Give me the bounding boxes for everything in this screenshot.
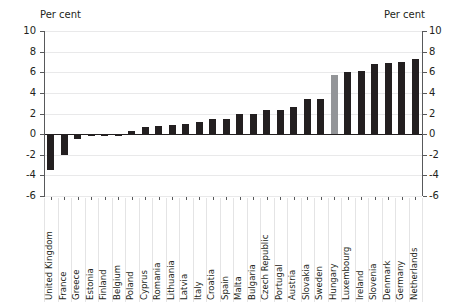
y-axis-label-right: 2 <box>429 109 435 119</box>
x-axis-tick <box>145 197 146 200</box>
y-axis-label-left: 8 <box>30 47 36 57</box>
bar <box>196 122 203 134</box>
left-axis-unit-label: Per cent <box>40 9 81 21</box>
y-axis-tick-right <box>423 72 427 73</box>
category-label: Cyprus <box>140 270 149 300</box>
x-axis-tick <box>91 197 92 200</box>
y-axis-label-left: 6 <box>30 67 36 77</box>
x-axis-tick <box>159 197 160 200</box>
category-label: Slovenia <box>369 263 378 300</box>
x-axis-tick <box>51 197 52 200</box>
bar <box>250 114 257 135</box>
category-label: Hungary <box>329 263 338 300</box>
y-axis-label-left: 10 <box>23 26 36 36</box>
gridline <box>44 52 422 53</box>
y-axis-label-left: 0 <box>30 129 36 139</box>
category-label: United Kingdom <box>45 231 54 300</box>
x-axis-tick <box>172 197 173 200</box>
category-label: Italy <box>194 281 203 300</box>
x-axis-tick <box>64 197 65 200</box>
x-axis-tick <box>334 197 335 200</box>
x-axis-tick <box>388 197 389 200</box>
y-axis-label-left: 2 <box>30 109 36 119</box>
category-label: Lithuania <box>167 260 176 300</box>
axis-spine-cap <box>423 196 427 197</box>
bar <box>236 114 243 135</box>
bar <box>169 125 176 134</box>
bar-chart: Per cent Per cent -6-6-4-4-2-20022446688… <box>0 0 465 302</box>
bar <box>209 119 216 134</box>
x-axis-tick <box>253 197 254 200</box>
bar <box>88 134 95 136</box>
x-axis-tick <box>78 197 79 200</box>
y-axis-label-left: -2 <box>26 150 36 160</box>
x-axis-tick <box>132 197 133 200</box>
x-axis-tick <box>213 197 214 200</box>
bar <box>47 134 54 170</box>
x-axis-tick <box>348 197 349 200</box>
y-axis-label-right: 6 <box>429 67 435 77</box>
y-axis-label-left: -6 <box>26 191 36 201</box>
gridline <box>44 155 422 156</box>
y-axis-label-right: 10 <box>429 26 442 36</box>
category-label: Austria <box>288 270 297 300</box>
gridline <box>44 31 422 32</box>
bar <box>290 107 297 134</box>
y-axis-tick-left <box>40 155 44 156</box>
left-axis-spine <box>44 31 45 196</box>
bar <box>61 134 68 155</box>
bar <box>398 62 405 134</box>
gridline <box>44 93 422 94</box>
y-axis-tick-right <box>423 155 427 156</box>
y-axis-tick-left <box>40 52 44 53</box>
y-axis-label-right: 0 <box>429 129 435 139</box>
bar <box>385 63 392 134</box>
x-axis-tick <box>240 197 241 200</box>
y-axis-label-right: -2 <box>429 150 439 160</box>
y-axis-tick-right <box>423 134 427 135</box>
gridline <box>44 175 422 176</box>
gridline <box>44 114 422 115</box>
category-label: Malta <box>234 276 243 300</box>
bar <box>412 59 419 134</box>
x-axis-tick <box>199 197 200 200</box>
category-label: Czech Republic <box>261 235 270 300</box>
category-label: Portugal <box>275 264 284 300</box>
category-label: Denmark <box>383 261 392 300</box>
y-axis-tick-right <box>423 175 427 176</box>
category-label: Estonia <box>86 268 95 300</box>
y-axis-label-left: 4 <box>30 88 36 98</box>
axis-spine-cap <box>41 31 45 32</box>
y-axis-tick-right <box>423 93 427 94</box>
x-axis-tick <box>321 197 322 200</box>
category-label: Croatia <box>207 269 216 300</box>
bar <box>115 134 122 136</box>
category-label: Luxembourg <box>342 247 351 300</box>
y-axis-label-right: -6 <box>429 191 439 201</box>
plot-area <box>44 31 422 196</box>
x-axis-tick <box>402 197 403 200</box>
right-axis-unit-label: Per cent <box>384 9 425 21</box>
gridline <box>44 196 422 197</box>
y-axis-tick-left <box>40 114 44 115</box>
bar <box>74 134 81 139</box>
category-label: Romania <box>153 262 162 300</box>
bar <box>128 131 135 134</box>
category-label: Spain <box>221 276 230 300</box>
x-axis-tick <box>307 197 308 200</box>
category-label: Slovakia <box>302 264 311 300</box>
x-axis-tick <box>375 197 376 200</box>
bar <box>331 75 338 134</box>
category-label: Finland <box>99 269 108 300</box>
gridline <box>44 72 422 73</box>
x-axis-tick <box>105 197 106 200</box>
bar <box>317 99 324 134</box>
bar <box>263 110 270 134</box>
bar <box>142 127 149 134</box>
x-axis-tick <box>415 197 416 200</box>
y-axis-tick-left <box>40 134 44 135</box>
bar <box>155 126 162 134</box>
y-axis-tick-left <box>40 72 44 73</box>
category-label: Greece <box>72 269 81 300</box>
x-axis-tick <box>267 197 268 200</box>
